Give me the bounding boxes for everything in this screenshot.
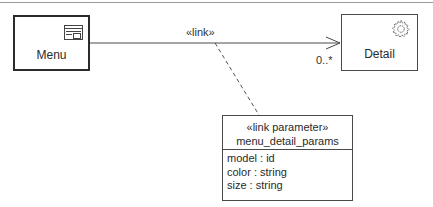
attribute-row: size : string <box>227 179 352 193</box>
gear-icon <box>391 19 411 39</box>
link-stereotype-label: «link» <box>186 26 215 38</box>
link-parameter-class[interactable]: «link parameter» menu_detail_params mode… <box>222 115 353 201</box>
window-form-icon <box>64 25 83 40</box>
multiplicity-label: 0..* <box>316 54 333 66</box>
detail-node[interactable]: Detail <box>341 14 418 71</box>
menu-node[interactable]: Menu <box>13 15 90 71</box>
attribute-row: model : id <box>227 152 352 166</box>
class-stereotype: «link parameter» <box>223 120 352 134</box>
menu-label: Menu <box>15 48 88 62</box>
link-parameter-dashed-line[interactable] <box>215 43 259 115</box>
class-name: menu_detail_params <box>223 134 352 148</box>
detail-label: Detail <box>342 47 417 61</box>
attribute-row: color : string <box>227 166 352 180</box>
class-attributes: model : id color : string size : string <box>223 150 352 193</box>
class-header: «link parameter» menu_detail_params <box>223 116 352 150</box>
